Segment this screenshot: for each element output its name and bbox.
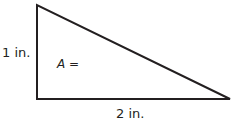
- area-label: A =: [57, 58, 79, 70]
- area-variable: A: [57, 57, 65, 71]
- area-equals: =: [65, 57, 79, 71]
- left-side-label: 1 in.: [2, 46, 30, 59]
- bottom-side-label: 2 in.: [116, 107, 144, 120]
- triangle-shape: [37, 5, 230, 99]
